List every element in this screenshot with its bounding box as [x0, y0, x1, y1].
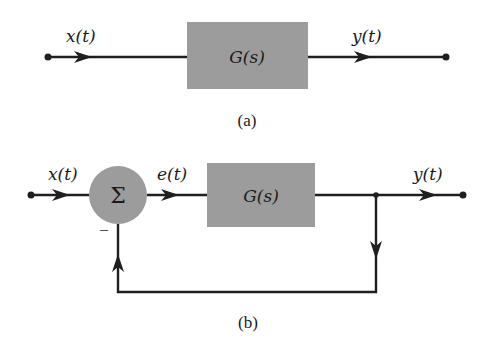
input-label-b: x(t): [48, 164, 78, 184]
output-terminal-b: [460, 192, 467, 199]
output-terminal-a: [443, 54, 450, 61]
error-label: e(t): [157, 164, 187, 184]
feedback-sign: −: [99, 221, 109, 240]
caption-a: (a): [238, 111, 257, 130]
diagram-b: x(t) Σ − e(t) G(s) y(t) (b): [28, 163, 467, 332]
caption-b: (b): [238, 313, 258, 332]
input-label-a: x(t): [66, 26, 96, 46]
block-diagrams: x(t) G(s) y(t) (a) x(t) Σ − e(t) G(s) y(…: [0, 0, 486, 345]
block-label-a: G(s): [229, 47, 265, 67]
sigma-icon: Σ: [110, 183, 126, 208]
block-label-b: G(s): [243, 186, 279, 206]
output-label-a: y(t): [351, 26, 382, 46]
output-label-b: y(t): [412, 164, 443, 184]
diagram-a: x(t) G(s) y(t) (a): [45, 22, 450, 130]
